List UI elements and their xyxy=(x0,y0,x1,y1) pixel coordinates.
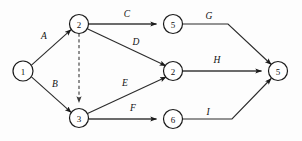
node-1[interactable]: 1 xyxy=(13,61,33,81)
edge-I-line xyxy=(183,79,271,120)
edge-label-F: F xyxy=(129,103,136,113)
edge-label-H: H xyxy=(213,55,222,65)
edge-label-E: E xyxy=(121,78,128,88)
node-2-top[interactable]: 2 xyxy=(70,15,89,34)
node-5-right-label: 5 xyxy=(276,67,281,77)
node-5-top[interactable]: 5 xyxy=(164,15,183,34)
node-3-label: 3 xyxy=(77,114,82,124)
node-5-right[interactable]: 5 xyxy=(269,62,288,81)
node-3[interactable]: 3 xyxy=(70,109,89,128)
network-diagram: A B C D E F G H I 1 2 3 5 2 xyxy=(0,0,302,141)
node-2-top-label: 2 xyxy=(77,20,82,30)
node-5-top-label: 5 xyxy=(171,20,176,30)
node-2-middle-label: 2 xyxy=(171,67,176,77)
network-diagram-canvas: A B C D E F G H I 1 2 3 5 2 xyxy=(0,0,302,141)
node-1-label: 1 xyxy=(21,67,26,77)
edge-label-B: B xyxy=(52,79,58,89)
node-6-label: 6 xyxy=(171,115,176,125)
edge-label-A: A xyxy=(40,31,47,41)
edge-label-C: C xyxy=(124,9,131,19)
edge-A-line xyxy=(31,30,71,66)
edge-label-D: D xyxy=(132,37,140,47)
edge-label-G: G xyxy=(206,11,213,21)
edge-D-line xyxy=(87,29,166,66)
edge-label-I: I xyxy=(205,107,210,117)
node-2-middle[interactable]: 2 xyxy=(164,62,183,81)
node-6[interactable]: 6 xyxy=(164,110,183,129)
edge-G-line xyxy=(183,24,271,65)
